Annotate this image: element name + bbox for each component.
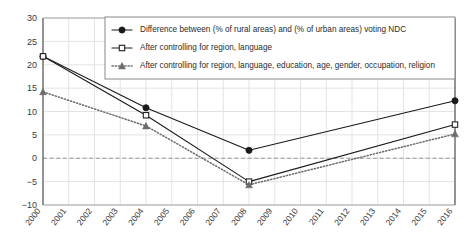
x-tick-label: 2016: [435, 206, 455, 227]
x-tick-label: 2005: [152, 206, 172, 227]
x-tick-label: 2002: [75, 206, 95, 227]
y-tick-label: 5: [32, 130, 37, 140]
legend-marker-filled-circle: [119, 27, 125, 33]
x-tick-label: 2009: [255, 206, 275, 227]
x-tick-label: 2001: [49, 206, 69, 227]
legend: Difference between (% of rural areas) an…: [105, 17, 455, 79]
data-point: [452, 122, 457, 127]
x-tick-label: 2004: [126, 206, 146, 227]
legend-label: Difference between (% of rural areas) an…: [140, 25, 406, 34]
y-tick-label: −10: [22, 200, 37, 210]
y-tick-label: 25: [27, 37, 37, 47]
legend-label: After controlling for region, language, …: [140, 61, 435, 70]
x-tick-label: 2007: [203, 206, 223, 227]
y-tick-label: 10: [27, 107, 37, 117]
chart-container: 2000200120022003200420052006200720082009…: [0, 0, 475, 250]
data-point: [40, 54, 45, 59]
data-point: [143, 105, 149, 111]
y-tick-label: 30: [27, 13, 37, 23]
x-tick-label: 2010: [281, 206, 301, 227]
y-tick-label: 15: [27, 83, 37, 93]
x-tick-label: 2006: [178, 206, 198, 227]
data-point: [452, 131, 459, 137]
data-point: [452, 98, 458, 104]
legend-item-3[interactable]: After controlling for region, language, …: [112, 61, 435, 70]
x-tick-label: 2008: [229, 206, 249, 227]
legend-item-1[interactable]: Difference between (% of rural areas) an…: [112, 25, 406, 34]
x-tick-label: 2015: [409, 206, 429, 227]
y-tick-label: 0: [32, 153, 37, 163]
x-tick-label: 2003: [100, 206, 120, 227]
y-tick-label: 20: [27, 60, 37, 70]
legend-marker-open-square: [119, 45, 124, 50]
data-point: [143, 113, 148, 118]
y-tick-label: −5: [27, 177, 37, 187]
data-point: [40, 88, 47, 94]
x-tick-label: 2012: [332, 206, 352, 227]
data-point: [246, 147, 252, 153]
x-tick-label: 2011: [307, 206, 326, 227]
x-tick-label: 2013: [358, 206, 378, 227]
x-tick-label: 2014: [384, 206, 404, 227]
line-chart: 2000200120022003200420052006200720082009…: [0, 0, 475, 250]
legend-label: After controlling for region, language: [140, 43, 272, 52]
